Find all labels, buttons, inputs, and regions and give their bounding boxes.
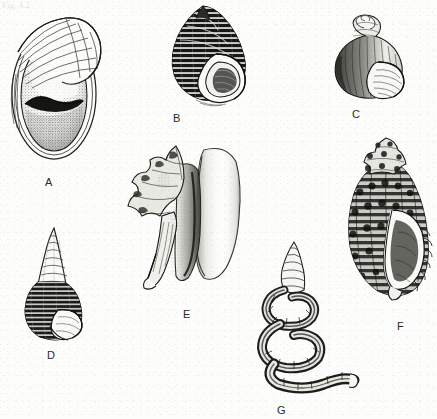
figure-label-g: G [277,404,286,416]
figure-label-d: D [47,349,55,361]
figure-d-turreted-spire-shell [16,226,94,346]
figure-a-abalone-shell [4,8,108,168]
figure-label-c: C [352,108,360,120]
figure-label-e: E [183,308,191,320]
figure-label-f: F [397,320,404,332]
figure-e-spiny-conch-shell [126,142,242,290]
figure-c-globose-periwinkle-shell [326,14,414,102]
figure-label-b: B [173,112,181,124]
figure-b-banded-snail-shell [156,4,260,108]
figure-g-worm-shell [250,240,358,392]
figure-label-a: A [45,176,53,188]
shell-plate-canvas: Fig. 4.2 [0,0,437,419]
